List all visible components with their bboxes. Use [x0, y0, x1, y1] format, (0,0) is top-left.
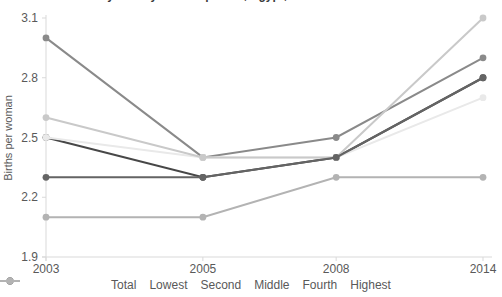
legend-marker-icon [0, 276, 20, 286]
y-axis-label: Births per woman [2, 95, 14, 181]
legend-item-highest: Highest [350, 279, 391, 291]
x-tick-label: 2014 [470, 262, 497, 276]
x-tick-label: 2003 [33, 262, 60, 276]
data-point-highest-2003 [43, 214, 50, 221]
y-tick-label: 2.8 [21, 71, 38, 85]
series-line-highest [46, 177, 483, 217]
legend-label: Fourth [303, 279, 338, 291]
legend-item-middle: Middle [254, 279, 289, 291]
data-point-middle-2003 [43, 114, 50, 121]
series-line-lowest [46, 38, 483, 158]
legend-label: Middle [254, 279, 289, 291]
data-point-lowest-2008 [333, 134, 340, 141]
data-point-fourth-2014 [480, 74, 487, 81]
x-tick-label: 2008 [323, 262, 350, 276]
legend-item-total: Total [111, 279, 136, 291]
data-point-lowest-2014 [480, 54, 487, 61]
fertility-line-chart: Total desired family size by wealth quin… [0, 0, 502, 297]
data-point-second-2003 [43, 134, 50, 141]
legend-item-lowest: Lowest [149, 279, 187, 291]
legend: TotalLowestSecondMiddleFourthHighest [0, 276, 502, 294]
data-point-highest-2014 [480, 174, 487, 181]
data-point-highest-2005 [199, 214, 206, 221]
data-point-fourth-2005 [199, 174, 206, 181]
legend-label: Highest [350, 279, 391, 291]
data-point-fourth-2008 [333, 154, 340, 161]
plot-area: 3.12.82.52.21.92003200520082014Births pe… [0, 0, 502, 276]
data-point-middle-2005 [199, 154, 206, 161]
y-tick-label: 2.2 [21, 190, 38, 204]
data-point-highest-2008 [333, 174, 340, 181]
legend-item-second: Second [200, 279, 241, 291]
data-point-middle-2014 [480, 15, 487, 22]
x-tick-label: 2005 [190, 262, 217, 276]
legend-label: Lowest [149, 279, 187, 291]
data-point-lowest-2003 [43, 35, 50, 42]
data-point-second-2014 [480, 94, 487, 101]
legend-label: Second [200, 279, 241, 291]
data-point-fourth-2003 [43, 174, 50, 181]
legend-item-fourth: Fourth [303, 279, 338, 291]
y-tick-label: 2.5 [21, 131, 38, 145]
legend-label: Total [111, 279, 136, 291]
y-tick-label: 3.1 [21, 11, 38, 25]
